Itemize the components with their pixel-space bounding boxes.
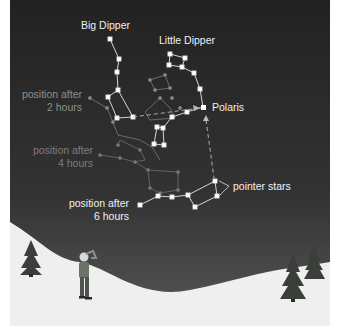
label-6-hours-line2: 6 hours <box>94 210 129 222</box>
label-little-dipper: Little Dipper <box>159 34 216 46</box>
label-4-hours-line1: position after <box>33 144 94 156</box>
label-big-dipper: Big Dipper <box>81 19 131 31</box>
label-2-hours-line2: 2 hours <box>47 101 82 113</box>
big-dipper-rotation-diagram: Big Dipper Little Dipper Polaris pointer… <box>0 0 337 326</box>
label-pointer-stars: pointer stars <box>233 180 291 192</box>
label-2-hours-line1: position after <box>22 88 83 100</box>
label-4-hours-line2: 4 hours <box>58 157 93 169</box>
label-polaris: Polaris <box>212 101 244 113</box>
label-6-hours-line1: position after <box>69 197 130 209</box>
polaris-star <box>201 105 206 110</box>
